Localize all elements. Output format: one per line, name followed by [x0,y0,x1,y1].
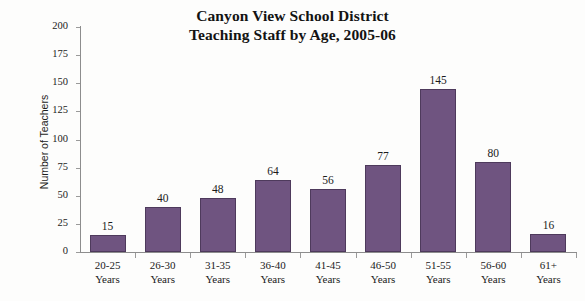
x-axis-line [80,252,577,253]
x-axis-category-label: 41-45Years [300,258,355,286]
x-axis-category-range: 41-45 [300,258,355,272]
y-axis-tick-label: 100 [0,133,68,144]
x-axis-category-unit: Years [300,272,355,286]
x-axis-category-unit: Years [190,272,245,286]
x-axis-category-unit: Years [411,272,466,286]
bar: 145 [420,89,456,252]
x-axis-category-label: 31-35Years [190,258,245,286]
y-axis-tick-label: 75 [0,161,68,172]
y-axis-tick-label: 200 [0,20,68,31]
x-axis-category-label: 51-55Years [411,258,466,286]
x-axis-category-unit: Years [135,272,190,286]
x-axis-tick [576,253,577,258]
y-axis-tick-label: 50 [0,189,68,200]
x-axis-category-range: 36-40 [245,258,300,272]
bar-value-label: 48 [212,183,224,195]
y-axis-tick-label: 175 [0,48,68,59]
y-axis-tick-label: 150 [0,76,68,87]
y-axis-tick-label: 125 [0,104,68,115]
bar-value-label: 16 [543,219,555,231]
bar-value-label: 77 [377,150,389,162]
x-axis-category-label: 61+Years [521,258,576,286]
bar-value-label: 56 [322,174,334,186]
chart-title-line-1: Canyon View School District [0,6,585,25]
x-axis-category-label: 46-50Years [356,258,411,286]
x-axis-category-label: 56-60Years [466,258,521,286]
x-axis-category-unit: Years [466,272,521,286]
x-axis-category-range: 26-30 [135,258,190,272]
bar: 64 [255,180,291,252]
x-axis-category-range: 61+ [521,258,576,272]
x-axis-category-label: 36-40Years [245,258,300,286]
x-axis-category-range: 31-35 [190,258,245,272]
plot-area: 1540486456771458016 [80,27,576,252]
bar: 15 [90,235,126,252]
x-axis-category-label: 26-30Years [135,258,190,286]
bar-chart: Canyon View School District Teaching Sta… [0,0,585,301]
bar: 56 [310,189,346,252]
x-axis-category-unit: Years [521,272,576,286]
bar-value-label: 80 [488,147,500,159]
y-axis-tick [76,252,80,253]
x-axis-category-unit: Years [356,272,411,286]
bar: 48 [200,198,236,252]
x-axis-category-range: 51-55 [411,258,466,272]
x-axis-category-unit: Years [245,272,300,286]
bar-value-label: 64 [267,165,279,177]
x-axis-category-label: 20-25Years [80,258,135,286]
x-axis-category-range: 20-25 [80,258,135,272]
bar: 16 [530,234,566,252]
bar: 77 [365,165,401,252]
bar: 40 [145,207,181,252]
x-axis-category-range: 46-50 [356,258,411,272]
bar: 80 [475,162,511,252]
y-axis-tick-label: 0 [0,245,68,256]
y-axis-tick-label: 25 [0,217,68,228]
x-axis-category-range: 56-60 [466,258,521,272]
x-axis-category-unit: Years [80,272,135,286]
bar-value-label: 15 [102,220,114,232]
bar-value-label: 145 [430,74,447,86]
bar-value-label: 40 [157,192,169,204]
